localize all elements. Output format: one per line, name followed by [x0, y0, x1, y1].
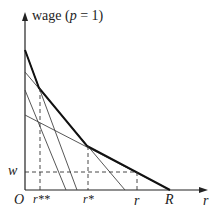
tick-r: r	[134, 194, 139, 208]
tick-r-star: r*	[83, 193, 94, 205]
diagram-canvas	[0, 0, 219, 214]
y-axis-arrow-icon	[22, 12, 28, 21]
w-label: w	[8, 164, 17, 178]
wage-frontier-envelope	[25, 50, 170, 190]
origin-label: O	[14, 193, 24, 207]
wage-frontier-diagram: wage (p = 1) w O r** r* r R r	[0, 0, 219, 214]
tick-R: R	[165, 193, 174, 207]
y-axis-label: wage (p = 1)	[32, 9, 103, 23]
tick-r-double-star: r**	[33, 193, 50, 205]
x-axis-label: r	[203, 194, 208, 208]
